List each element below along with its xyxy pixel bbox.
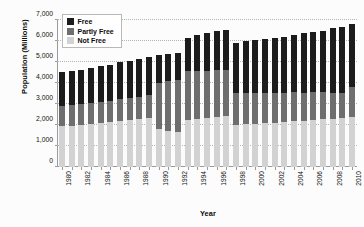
bar-segment-free [185, 38, 191, 72]
y-axis-title: Population (Millions) [20, 0, 29, 127]
stacked-bar[interactable] [291, 35, 297, 167]
bar-segment-free [291, 35, 297, 93]
legend-item-not-free[interactable]: Not Free [67, 37, 114, 44]
stacked-bar[interactable] [339, 27, 345, 167]
x-axis-title: Year [57, 209, 359, 218]
bar-slot [221, 20, 231, 167]
stacked-bar[interactable] [223, 30, 229, 167]
stacked-bar[interactable] [146, 57, 152, 167]
bar-segment-not-free [291, 121, 297, 167]
x-tick-mark [236, 167, 237, 170]
bar-segment-not-free [281, 122, 287, 167]
stacked-bar[interactable] [69, 71, 75, 167]
bar-segment-partly-free [233, 93, 239, 125]
stacked-bar[interactable] [320, 31, 326, 168]
legend-item-free[interactable]: Free [67, 18, 114, 25]
stacked-bar[interactable] [281, 37, 287, 167]
bar-segment-not-free [194, 119, 200, 167]
stacked-bar[interactable] [272, 38, 278, 167]
bar-segment-not-free [88, 124, 94, 167]
bar-slot [134, 20, 144, 167]
bar-segment-not-free [69, 126, 75, 167]
bar-slot [192, 20, 202, 167]
stacked-bar[interactable] [127, 61, 133, 167]
bar-slot [279, 20, 289, 167]
stacked-bar[interactable] [252, 40, 258, 167]
bar-segment-free [339, 27, 345, 93]
stacked-bar[interactable] [214, 31, 220, 167]
x-tick-label: 2002 [278, 171, 285, 186]
stacked-bar[interactable] [175, 53, 181, 167]
x-tick-mark [159, 167, 160, 170]
stacked-bar[interactable] [98, 66, 104, 167]
stacked-bar[interactable] [59, 72, 65, 167]
x-tick-label: 1992 [181, 171, 188, 186]
stacked-bar[interactable] [156, 55, 162, 167]
y-tick-label: 2,000 [36, 115, 53, 122]
bar-segment-free [330, 28, 336, 92]
bar-segment-not-free [233, 125, 239, 167]
legend-swatch-icon [67, 18, 74, 25]
bar-segment-free [281, 37, 287, 93]
chart-legend: FreePartly FreeNot Free [62, 14, 122, 48]
stacked-bar[interactable] [78, 70, 84, 167]
bar-segment-not-free [107, 122, 113, 167]
bar-segment-free [107, 65, 113, 101]
bar-segment-not-free [262, 123, 268, 167]
bar-slot [337, 20, 347, 167]
bar-segment-free [146, 57, 152, 95]
stacked-bar[interactable] [262, 39, 268, 167]
x-tick-mark [333, 167, 334, 170]
x-tick-mark [139, 167, 140, 170]
stacked-bar[interactable] [233, 43, 239, 167]
bar-segment-partly-free [301, 93, 307, 121]
bar-segment-partly-free [291, 92, 297, 121]
bar-segment-partly-free [127, 98, 133, 120]
bar-segment-partly-free [243, 93, 249, 124]
x-tick-label: 1982 [84, 171, 91, 186]
bar-segment-partly-free [281, 93, 287, 122]
bar-segment-free [252, 40, 258, 92]
stacked-bar[interactable] [301, 33, 307, 167]
bar-slot [299, 20, 309, 167]
stacked-bar[interactable] [194, 35, 200, 167]
bar-segment-not-free [117, 121, 123, 167]
bar-segment-not-free [59, 126, 65, 167]
bar-segment-not-free [156, 129, 162, 167]
bar-segment-free [156, 55, 162, 82]
y-tick-label: 0 [49, 157, 53, 164]
x-tick-mark [265, 167, 266, 170]
x-tick-mark [313, 167, 314, 170]
stacked-bar[interactable] [107, 65, 113, 167]
bar-slot [144, 20, 154, 167]
bar-segment-free [272, 38, 278, 93]
bar-segment-free [88, 68, 94, 102]
bar-segment-free [310, 32, 316, 92]
bar-slot [328, 20, 338, 167]
bar-segment-not-free [330, 119, 336, 167]
bar-segment-free [223, 30, 229, 70]
stacked-bar[interactable] [349, 24, 355, 167]
x-tick-mark [294, 167, 295, 170]
stacked-bar[interactable] [117, 62, 123, 167]
stacked-bar[interactable] [185, 38, 191, 167]
bar-slot [250, 20, 260, 167]
bar-segment-free [127, 61, 133, 98]
stacked-bar[interactable] [310, 32, 316, 167]
x-tick-mark [226, 167, 227, 170]
bar-segment-free [262, 39, 268, 92]
stacked-bar[interactable] [204, 33, 210, 167]
stacked-bar[interactable] [88, 68, 94, 167]
stacked-bar[interactable] [165, 54, 171, 167]
bar-segment-not-free [310, 120, 316, 167]
legend-item-partly-free[interactable]: Partly Free [67, 28, 114, 35]
bar-segment-partly-free [349, 87, 355, 117]
bar-slot [318, 20, 328, 167]
stacked-bar[interactable] [330, 28, 336, 167]
bar-segment-not-free [175, 132, 181, 167]
x-tick-mark [284, 167, 285, 170]
stacked-bar[interactable] [136, 59, 142, 167]
bar-segment-free [59, 72, 65, 105]
bar-segment-partly-free [175, 80, 181, 132]
stacked-bar[interactable] [243, 41, 249, 167]
